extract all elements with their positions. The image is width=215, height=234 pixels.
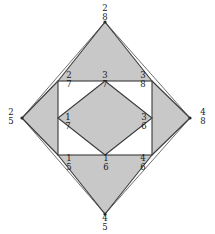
edge-label-inner-left: 1 7 xyxy=(55,113,81,131)
geometric-diagram: 2 8 2 5 4 8 4 5 2 7 3 7 3 8 1 7 3 6 1 5 … xyxy=(0,0,215,234)
edge-label-upper-left: 2 7 xyxy=(56,71,82,89)
edge-label-inner-left-denominator: 7 xyxy=(55,122,81,131)
diagram-canvas xyxy=(0,0,215,234)
vertex-label-top: 2 8 xyxy=(92,4,118,22)
edge-label-center-top-denominator: 7 xyxy=(92,80,118,89)
vertex-label-top-denominator: 8 xyxy=(92,13,118,22)
edge-label-inner-right-denominator: 6 xyxy=(131,122,157,131)
edge-label-lower-right-denominator: 6 xyxy=(130,163,156,172)
edge-label-lower-left-denominator: 5 xyxy=(56,163,82,172)
edge-label-lower-right: 4 6 xyxy=(130,154,156,172)
vertex-label-right-denominator: 8 xyxy=(190,117,215,126)
edge-label-upper-right-denominator: 8 xyxy=(130,80,156,89)
vertex-label-left-denominator: 5 xyxy=(0,117,24,126)
vertex-label-bottom-denominator: 5 xyxy=(92,223,118,232)
vertex-label-bottom: 4 5 xyxy=(92,214,118,232)
vertex-label-left: 2 5 xyxy=(0,108,24,126)
edge-label-center-bottom-denominator: 6 xyxy=(93,163,119,172)
edge-label-upper-left-denominator: 7 xyxy=(56,80,82,89)
edge-label-inner-right: 3 6 xyxy=(131,113,157,131)
edge-label-upper-right: 3 8 xyxy=(130,71,156,89)
vertex-label-right: 4 8 xyxy=(190,108,215,126)
edge-label-center-bottom: 1 6 xyxy=(93,154,119,172)
edge-label-center-top: 3 7 xyxy=(92,71,118,89)
edge-label-lower-left: 1 5 xyxy=(56,154,82,172)
